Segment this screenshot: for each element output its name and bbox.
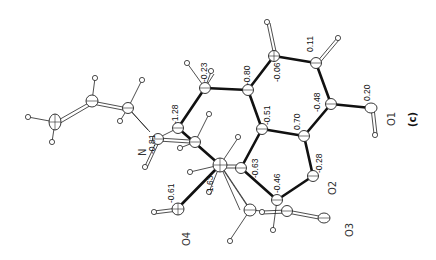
charge-c-center: -0.51 (262, 105, 272, 125)
label-o3: O3 (344, 223, 355, 237)
charge-c-bottom: -0.46 (272, 173, 282, 193)
label-n: N (137, 149, 148, 156)
charge-c-top-left: -0.23 (199, 62, 209, 82)
atoms (49, 51, 377, 224)
molecule-diagram: -0.23 -1.28 -0.80 -0.06 0.11 -0.51 0.70 … (0, 0, 436, 260)
label-o2: O2 (327, 181, 338, 195)
charge-c-left: -1.28 (170, 104, 180, 124)
charge-o4: -0.61 (166, 183, 176, 203)
charge-c-ring-right: 0.11 (305, 36, 315, 52)
charge-c-lower-mid: -0.63 (250, 158, 260, 178)
atom-o1 (365, 103, 377, 113)
charge-c-mid: 0.70 (292, 113, 302, 130)
open-bonds (28, 23, 377, 240)
charge-c-ring-top2: -0.06 (272, 62, 282, 82)
charge-c-ring-top: -0.80 (242, 65, 252, 85)
charge-n: -0.81 (147, 134, 157, 154)
charge-o1: 0.20 (362, 84, 372, 101)
charge-o2: -0.28 (314, 153, 324, 173)
charge-c-right: -0.48 (312, 92, 322, 112)
charge-c-lower: -1.63 (205, 175, 215, 195)
panel-label: (c) (407, 112, 418, 127)
label-o4: O4 (181, 232, 192, 246)
label-o1: O1 (386, 112, 397, 126)
